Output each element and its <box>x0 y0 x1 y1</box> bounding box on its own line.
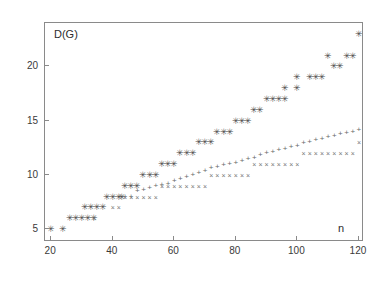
data-point-cross: × <box>178 182 182 189</box>
y-tick-label: 10 <box>12 168 38 179</box>
y-axis-label: D(G) <box>54 28 78 40</box>
y-tick-mark <box>44 228 49 229</box>
x-tick-mark <box>358 236 359 241</box>
data-point-cross: × <box>185 182 189 189</box>
data-point-plus: + <box>270 148 275 156</box>
data-point-plus: + <box>153 182 158 190</box>
data-point-cross: × <box>148 193 152 200</box>
data-point-plus: + <box>258 151 263 159</box>
x-tick-label: 120 <box>338 245 378 256</box>
plot-frame: ✳✳✳✳✳✳✳✳✳✳✳✳✳✳✳✳✳✳✳✳✳✳✳✳✳✳✳✳✳✳✳✳✳✳✳✳✳✳✳✳… <box>44 22 363 241</box>
y-tick-mark <box>44 174 49 175</box>
data-point-cross: × <box>160 182 164 189</box>
data-point-cross: × <box>129 193 133 200</box>
data-point-plus: + <box>197 169 202 177</box>
data-point-cross: × <box>332 150 336 157</box>
data-point-cross: × <box>258 161 262 168</box>
x-tick-label: 80 <box>215 245 255 256</box>
y-tick-mark <box>44 65 49 66</box>
data-point-cross: × <box>197 182 201 189</box>
data-points-layer: ✳✳✳✳✳✳✳✳✳✳✳✳✳✳✳✳✳✳✳✳✳✳✳✳✳✳✳✳✳✳✳✳✳✳✳✳✳✳✳✳… <box>45 23 362 240</box>
data-point-cross: × <box>209 171 213 178</box>
data-point-cross: × <box>228 171 232 178</box>
data-point-cross: × <box>301 150 305 157</box>
y-tick-label: 20 <box>12 60 38 71</box>
data-point-star: ✳ <box>293 73 301 82</box>
data-point-cross: × <box>172 182 176 189</box>
data-point-plus: + <box>320 135 325 143</box>
data-point-cross: × <box>234 171 238 178</box>
data-point-plus: + <box>190 171 195 179</box>
data-point-cross: × <box>277 161 281 168</box>
data-point-plus: + <box>289 143 294 151</box>
data-point-plus: + <box>283 145 288 153</box>
data-point-cross: × <box>191 182 195 189</box>
data-point-plus: + <box>338 130 343 138</box>
data-point-plus: + <box>227 160 232 168</box>
data-point-plus: + <box>147 184 152 192</box>
data-point-plus: + <box>350 128 355 136</box>
data-point-plus: + <box>233 159 238 167</box>
data-point-plus: + <box>344 129 349 137</box>
data-point-cross: × <box>203 182 207 189</box>
data-point-star: ✳ <box>170 160 178 169</box>
x-tick-mark <box>50 236 51 241</box>
data-point-cross: × <box>135 193 139 200</box>
data-point-cross: × <box>92 215 96 222</box>
data-point-star: ✳ <box>355 29 362 38</box>
data-point-plus: + <box>332 132 337 140</box>
data-point-plus: + <box>215 163 220 171</box>
data-point-cross: × <box>314 150 318 157</box>
data-point-plus: + <box>240 157 245 165</box>
data-point-cross: × <box>252 161 256 168</box>
data-point-star: ✳ <box>293 84 301 93</box>
data-point-plus: + <box>277 146 282 154</box>
data-point-star: ✳ <box>152 170 160 179</box>
data-point-star: ✳ <box>281 84 289 93</box>
x-tick-label: 20 <box>30 245 70 256</box>
data-point-cross: × <box>283 161 287 168</box>
data-point-cross: × <box>123 193 127 200</box>
data-point-cross: × <box>154 193 158 200</box>
data-point-plus: + <box>221 161 226 169</box>
x-tick-label: 40 <box>92 245 132 256</box>
data-point-star: ✳ <box>324 51 332 60</box>
scatter-plot-figure: ✳✳✳✳✳✳✳✳✳✳✳✳✳✳✳✳✳✳✳✳✳✳✳✳✳✳✳✳✳✳✳✳✳✳✳✳✳✳✳✳… <box>0 0 383 287</box>
x-axis-label: n <box>338 222 344 234</box>
x-tick-mark <box>112 236 113 241</box>
data-point-star: ✳ <box>281 94 289 103</box>
data-point-star: ✳ <box>256 105 264 114</box>
data-point-plus: + <box>313 136 318 144</box>
data-point-cross: × <box>111 204 115 211</box>
x-tick-label: 100 <box>276 245 316 256</box>
data-point-plus: + <box>301 139 306 147</box>
data-point-cross: × <box>320 150 324 157</box>
data-point-star: ✳ <box>189 149 197 158</box>
data-point-cross: × <box>240 171 244 178</box>
data-point-star: ✳ <box>99 203 107 212</box>
data-point-cross: × <box>166 182 170 189</box>
data-point-star: ✳ <box>207 138 215 147</box>
data-point-cross: × <box>357 139 361 146</box>
x-tick-label: 60 <box>153 245 193 256</box>
data-point-star: ✳ <box>336 62 344 71</box>
data-point-star: ✳ <box>244 116 252 125</box>
data-point-star: ✳ <box>318 73 326 82</box>
data-point-cross: × <box>265 161 269 168</box>
x-tick-mark <box>296 236 297 241</box>
x-tick-mark <box>235 236 236 241</box>
data-point-cross: × <box>215 171 219 178</box>
data-point-plus: + <box>246 155 251 163</box>
data-point-plus: + <box>264 149 269 157</box>
data-point-cross: × <box>351 150 355 157</box>
data-point-cross: × <box>141 193 145 200</box>
data-point-cross: × <box>308 150 312 157</box>
data-point-plus: + <box>203 167 208 175</box>
data-point-cross: × <box>289 161 293 168</box>
data-point-star: ✳ <box>226 127 234 136</box>
data-point-star: ✳ <box>349 51 357 60</box>
y-tick-mark <box>44 120 49 121</box>
data-point-star: ✳ <box>47 225 55 234</box>
data-point-plus: + <box>357 126 362 134</box>
data-point-cross: × <box>295 161 299 168</box>
